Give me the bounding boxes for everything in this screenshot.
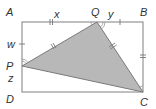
label-y: y bbox=[107, 8, 115, 20]
label-d: D bbox=[6, 93, 14, 105]
label-w: w bbox=[7, 38, 16, 50]
label-p: P bbox=[6, 60, 14, 72]
angle-arc-q-right bbox=[101, 22, 104, 27]
geometry-diagram: A B C D P Q x y w z bbox=[0, 0, 156, 109]
label-z: z bbox=[7, 72, 14, 84]
label-a: A bbox=[5, 6, 13, 18]
triangle-pqc bbox=[22, 22, 143, 92]
label-b: B bbox=[140, 6, 147, 18]
label-q: Q bbox=[91, 6, 100, 18]
label-c: C bbox=[140, 96, 148, 108]
label-x: x bbox=[53, 8, 60, 20]
angle-arc-p2 bbox=[22, 61, 26, 64]
